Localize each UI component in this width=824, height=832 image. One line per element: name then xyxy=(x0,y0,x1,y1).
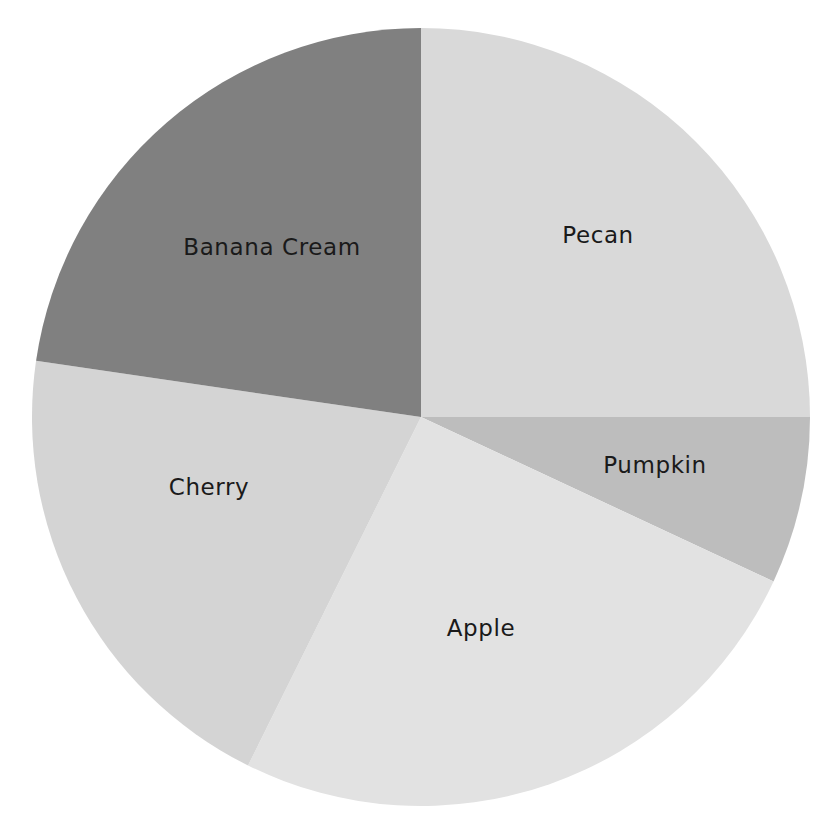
pie-slice-label-cherry: Cherry xyxy=(169,474,250,500)
pie-chart-figure: PecanPumpkinAppleCherryBanana Cream xyxy=(0,0,824,832)
pie-slice-label-pumpkin: Pumpkin xyxy=(603,452,707,478)
pie-slices-group xyxy=(32,28,810,806)
pie-slice-label-pecan: Pecan xyxy=(562,222,634,248)
pie-slice-label-apple: Apple xyxy=(447,615,515,641)
pie-chart-svg: PecanPumpkinAppleCherryBanana Cream xyxy=(0,0,824,832)
pie-slice-label-banana-cream: Banana Cream xyxy=(183,234,360,260)
